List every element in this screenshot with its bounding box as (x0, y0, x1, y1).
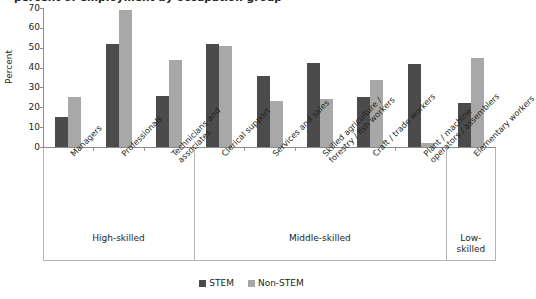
legend-swatch-icon (199, 280, 206, 287)
y-tick-label: 30 (20, 83, 40, 92)
x-tick-mark (345, 148, 346, 151)
bar-non-stem (169, 60, 182, 147)
y-tick-label: 70 (20, 4, 40, 13)
chart-title-truncated: percent of employment by occupation grou… (14, 0, 494, 3)
chart-legend: STEMNon-STEM (0, 278, 503, 288)
y-axis-ticks: 010203040506070 (18, 0, 40, 160)
x-tick-mark (244, 148, 245, 151)
skill-group-label: Low- skilled (446, 233, 496, 255)
y-tick-label: 10 (20, 123, 40, 132)
y-tick-label: 0 (20, 143, 40, 152)
skill-group-label: Middle-skilled (194, 233, 446, 244)
y-tick-mark (40, 107, 43, 108)
y-tick-mark (40, 48, 43, 49)
bar-stem (106, 44, 119, 147)
y-tick-mark (40, 87, 43, 88)
legend-swatch-icon (248, 280, 255, 287)
legend-label: STEM (209, 278, 234, 288)
plot-area (43, 8, 496, 147)
y-tick-mark (40, 28, 43, 29)
skill-group-label: High-skilled (43, 233, 194, 244)
group-divider (194, 148, 195, 261)
bar-stem (55, 117, 68, 147)
x-tick-mark (144, 148, 145, 151)
y-tick-label: 40 (20, 63, 40, 72)
x-tick-mark (93, 148, 94, 151)
x-tick-mark (295, 148, 296, 151)
y-tick-label: 50 (20, 43, 40, 52)
y-tick-mark (40, 147, 43, 148)
y-tick-label: 60 (20, 23, 40, 32)
legend-item[interactable]: Non-STEM (248, 278, 304, 288)
bar-non-stem (219, 46, 232, 147)
legend-item[interactable]: STEM (199, 278, 234, 288)
legend-label: Non-STEM (258, 278, 304, 288)
x-tick-mark (395, 148, 396, 151)
y-tick-mark (40, 68, 43, 69)
category-label-box (43, 148, 496, 261)
y-tick-mark (40, 127, 43, 128)
bar-non-stem (119, 10, 132, 147)
y-tick-mark (40, 8, 43, 9)
y-axis-label: Percent (4, 32, 14, 102)
y-tick-label: 20 (20, 103, 40, 112)
